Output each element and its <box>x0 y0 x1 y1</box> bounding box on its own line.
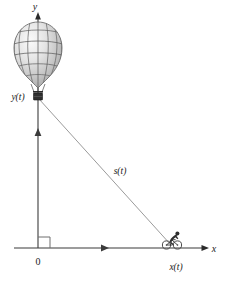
slant-distance-label: s(t) <box>114 166 127 177</box>
balloon-velocity-arrow <box>35 128 42 152</box>
cyclist-velocity-arrow <box>86 245 109 252</box>
cyclist-distance-label: x(t) <box>168 262 182 273</box>
slant-distance-line <box>39 99 171 245</box>
balloon-height-label: y(t) <box>10 92 24 103</box>
right-angle-mark <box>38 237 50 248</box>
x-axis-arrowhead <box>202 245 210 251</box>
x-axis-label: x <box>211 243 217 254</box>
origin-label: 0 <box>36 256 41 267</box>
y-axis-label: y <box>32 1 38 12</box>
y-axis-arrowhead <box>35 12 41 20</box>
figure-canvas: y x 0 y(t) x(t) s(t) <box>0 0 225 281</box>
balloon-cyclist-figure: y x 0 y(t) x(t) s(t) <box>0 0 225 281</box>
cyclist <box>162 232 181 249</box>
balloon-burner <box>33 91 43 93</box>
hot-air-balloon <box>14 21 63 100</box>
